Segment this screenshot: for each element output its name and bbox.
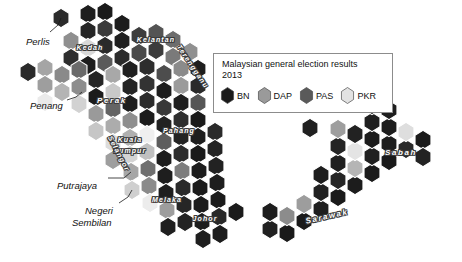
constituency-hexagon [156,132,172,151]
constituency-hexagon [177,212,193,231]
constituency-hexagon [156,149,172,168]
constituency-hexagon [105,133,121,152]
constituency-hexagon [88,121,104,140]
constituency-hexagon [347,175,363,194]
constituency-hexagon [296,211,312,230]
constituency-hexagon [122,128,138,147]
constituency-hexagon [330,119,346,138]
constituency-hexagon [114,31,130,50]
legend-title-line2: 2013 [222,70,242,80]
constituency-hexagon [160,217,176,236]
constituency-hexagon [156,115,172,134]
constituency-hexagon [262,219,278,238]
constituency-hexagon [122,77,138,96]
constituency-hexagon [190,110,206,129]
constituency-hexagon [207,139,223,158]
constituency-hexagon [173,110,189,129]
constituency-hexagon [192,178,208,197]
constituency-hexagon [139,125,155,144]
constituency-hexagon [142,193,158,212]
constituency-hexagon [381,151,397,170]
constituency-hexagon [37,75,53,94]
constituency-hexagon [139,74,155,93]
constituency-hexagon [139,91,155,110]
constituency-hexagon [105,150,121,169]
constituency-hexagon [97,2,113,21]
constituency-hexagon [398,139,414,158]
constituency-hexagon [191,161,207,180]
constituency-hexagon [174,161,190,180]
legend-title-line1: Malaysian general election results [222,59,358,69]
constituency-hexagon [141,176,157,195]
constituency-hexagon [211,207,227,226]
constituency-hexagon [71,94,87,113]
constituency-hexagon [157,166,173,185]
legend-key-dap: DAP [257,87,293,104]
legend-key-bn: BN [220,87,250,104]
constituency-hexagon [173,93,189,112]
constituency-hexagon [262,202,278,221]
constituency-hexagon [71,60,87,79]
constituency-hexagon [122,60,138,79]
constituency-hexagon [347,158,363,177]
constituency-hexagon [296,194,312,213]
legend-key-list: BNDAPPASPKR [220,87,383,104]
constituency-hexagon [71,77,87,96]
constituency-hexagon [54,82,70,101]
constituency-hexagon [347,141,363,160]
constituency-hexagon [20,62,36,81]
constituency-hexagon [182,42,198,61]
legend-key-pas: PAS [299,87,333,104]
legend-label-dap: DAP [274,91,293,101]
constituency-hexagon [122,111,138,130]
constituency-hexagon [159,200,175,219]
constituency-hexagon [228,202,244,221]
constituency-hexagon [173,59,189,78]
constituency-hexagon [158,183,174,202]
constituency-hexagon [140,159,156,178]
constituency-hexagon [139,142,155,161]
constituency-hexagon [80,21,96,40]
constituency-hexagon [156,64,172,83]
legend-label-pkr: PKR [357,91,376,101]
legend-key-pkr: PKR [340,87,376,104]
constituency-hexagon [415,147,431,166]
constituency-hexagon [105,82,121,101]
constituency-hexagon [176,195,192,214]
constituency-hexagon [415,130,431,149]
constituency-hexagon [381,117,397,136]
constituency-hexagon [97,19,113,38]
constituency-hexagon [190,144,206,163]
constituency-hexagon [37,58,53,77]
constituency-hexagon [364,163,380,182]
constituency-hexagon [398,122,414,141]
constituency-hexagon [54,65,70,84]
constituency-hexagon [313,165,329,184]
legend-label-pas: PAS [316,91,333,101]
constituency-hexagon [105,116,121,135]
constituency-hexagon [330,170,346,189]
constituency-hexagon [190,127,206,146]
constituency-hexagon [105,65,121,84]
constituency-hexagon [173,144,189,163]
constituency-hexagon [148,23,164,42]
constituency-hexagon [80,38,96,57]
constituency-hexagon [364,146,380,165]
legend-swatch-pas-icon [299,87,314,104]
constituency-hexagon [105,99,121,118]
constituency-hexagon [131,26,147,45]
constituency-hexagon [190,59,206,78]
constituency-hexagon [173,127,189,146]
constituency-hexagon [156,81,172,100]
constituency-hexagon [330,136,346,155]
constituency-hexagon [88,104,104,123]
constituency-hexagon [208,156,224,175]
constituency-hexagon [210,190,226,209]
constituency-hexagon [37,92,53,111]
constituency-hexagon [165,30,181,49]
constituency-hexagon [207,122,223,141]
constituency-hexagon [195,229,211,248]
constituency-hexagon [381,134,397,153]
constituency-hexagon [148,40,164,59]
constituency-hexagon [97,36,113,55]
